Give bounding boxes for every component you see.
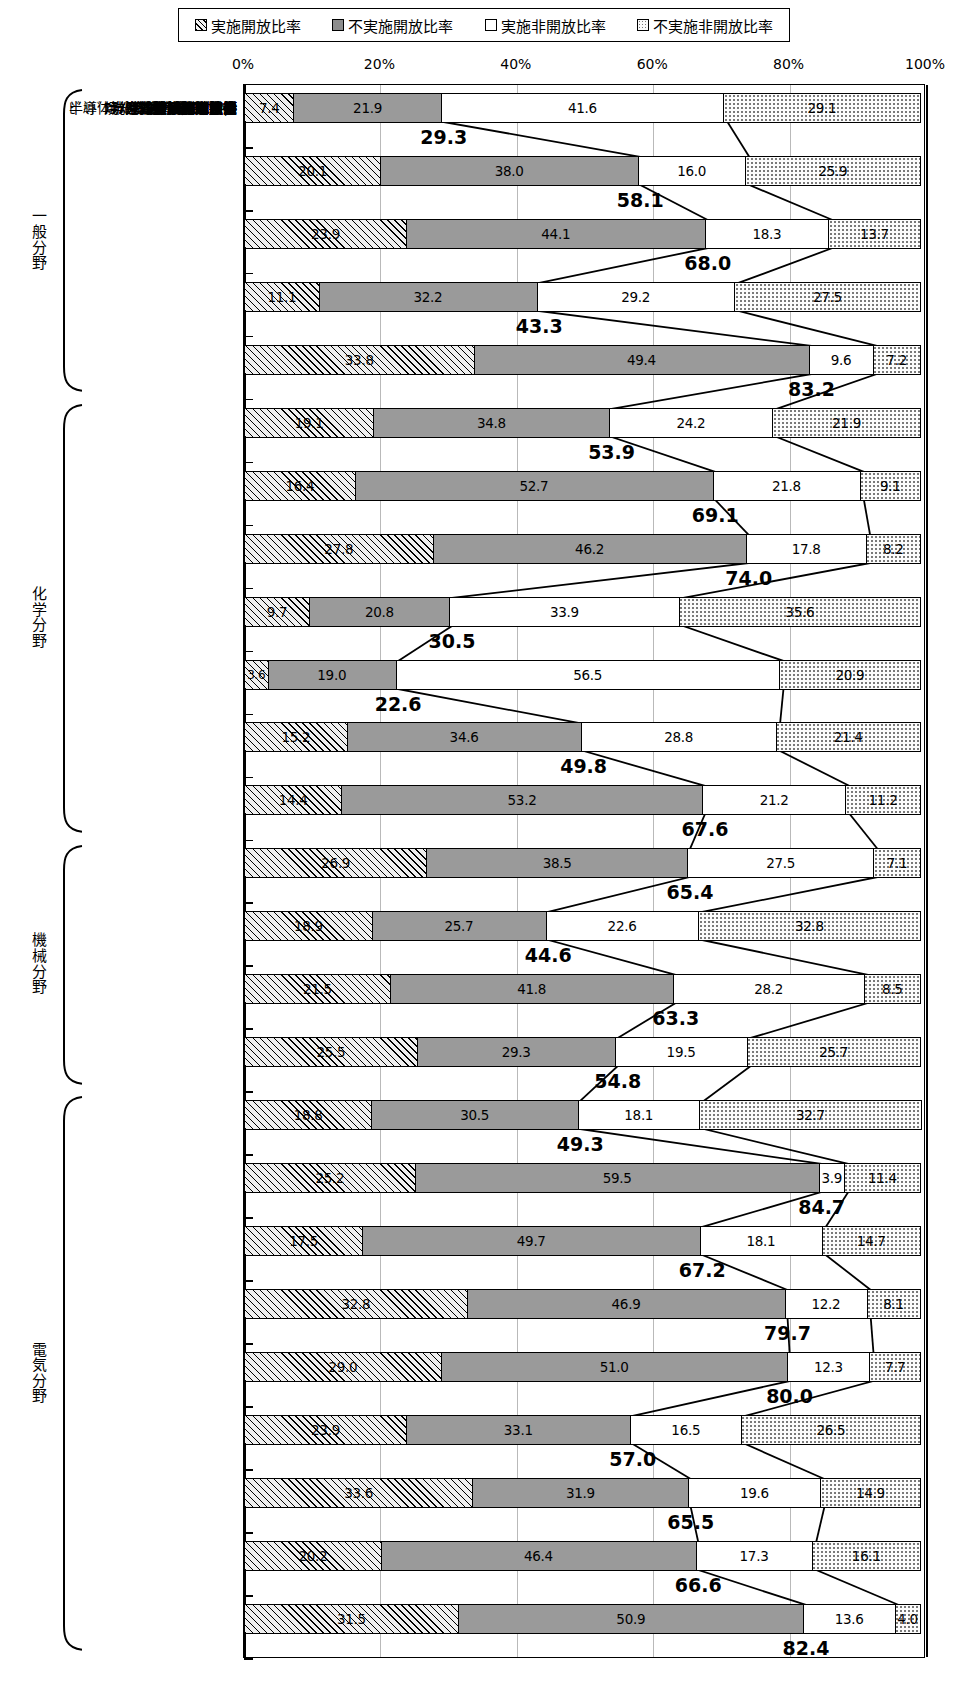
bar-segment-s1: 23.9 [244,219,407,249]
bar-segment-value: 23.9 [311,226,340,242]
gridline-100 [926,85,928,1657]
bar-segment-value: 18.3 [753,226,782,242]
bar-segment-value: 29.2 [621,289,650,305]
bar-segment-s4: 35.6 [678,597,921,627]
open-ratio-total-label: 67.2 [679,1259,726,1281]
bar-segment-value: 32.8 [795,918,824,934]
bar-segment-s2: 46.4 [380,1541,696,1571]
bar-segment-s4: 14.7 [821,1226,921,1256]
bar-segment-s3: 19.6 [688,1478,822,1508]
bar-segment-value: 52.7 [520,478,549,494]
bar-segment-value: 21.2 [760,792,789,808]
group-label: 一般分野 [30,209,48,271]
bar-segment-value: 25.2 [316,1170,345,1186]
stacked-bar: 31.550.913.64.0 [244,1604,926,1634]
x-tick-label-0: 0% [232,56,254,72]
bar-segment-s1: 3.6 [244,660,269,690]
bar-segment-value: 20.1 [298,163,327,179]
bar-segment-s3: 9.6 [808,345,873,375]
group-brace-icon [56,1095,96,1656]
bar-segment-s2: 20.8 [309,597,451,627]
bar-segment-value: 22.6 [608,918,637,934]
category-label: 無線LAN [181,97,237,117]
bar-segment-value: 21.5 [303,981,332,997]
group-brace-icon [56,844,96,1090]
bar-segment-s3: 29.2 [536,282,735,312]
bar-segment-s1: 32.8 [244,1289,468,1319]
chart-row: 27.846.217.88.274.0 [244,526,924,589]
chart-row: 9.720.833.935.630.5 [244,589,924,652]
bar-segment-value: 53.2 [508,792,537,808]
bar-segment-s4: 7.7 [869,1352,922,1382]
bar-segment-value: 24.2 [676,415,705,431]
bar-segment-value: 46.9 [612,1296,641,1312]
bar-segment-value: 29.3 [502,1044,531,1060]
bar-segment-value: 23.9 [311,1422,340,1438]
legend-swatch-grey-icon [332,19,344,31]
stacked-bar: 26.938.527.57.1 [244,848,926,878]
bar-segment-s2: 38.0 [379,156,638,186]
bar-segment-value: 19.5 [667,1044,696,1060]
bar-segment-s1: 19.1 [244,408,374,438]
bar-segment-s4: 25.7 [746,1037,921,1067]
bar-segment-value: 33.1 [504,1422,533,1438]
bar-segment-s4: 7.1 [873,848,921,878]
bar-segment-s3: 17.8 [745,534,866,564]
bar-segment-s3: 18.1 [699,1226,822,1256]
chart-row: 3.619.056.520.922.6 [244,652,924,715]
chart-row: 18.830.518.132.749.3 [244,1092,924,1155]
bar-segment-s2: 41.8 [389,974,674,1004]
stacked-bar-chart-plot: 7.421.941.629.129.320.138.016.025.958.12… [243,84,925,1658]
open-ratio-total-label: 79.7 [764,1322,811,1344]
stacked-bar: 20.138.016.025.9 [244,156,926,186]
bar-segment-s3: 41.6 [441,93,725,123]
bar-segment-value: 17.5 [289,1233,318,1249]
bar-segment-value: 12.2 [812,1296,841,1312]
bar-segment-value: 17.3 [740,1548,769,1564]
open-ratio-total-label: 65.4 [667,881,714,903]
bar-segment-value: 8.1 [883,1296,904,1312]
bar-segment-value: 31.9 [566,1485,595,1501]
open-ratio-total-label: 44.6 [525,944,572,966]
group-label: 機械分野 [30,933,48,995]
bar-segment-s2: 31.9 [472,1478,690,1508]
bar-segment-value: 20.8 [365,604,394,620]
bar-segment-s2: 34.8 [373,408,610,438]
bar-segment-s2: 49.4 [473,345,810,375]
chart-row: 26.938.527.57.165.4 [244,841,924,904]
bar-segment-s3: 19.5 [615,1037,748,1067]
chart-row: 23.944.118.313.768.0 [244,211,924,274]
bar-segment-s1: 16.4 [244,471,356,501]
bar-segment-value: 3.6 [247,668,265,682]
group-brace-icon [56,88,96,397]
stacked-bar: 23.944.118.313.7 [244,219,926,249]
bar-segment-value: 8.5 [882,981,903,997]
bar-segment-value: 21.9 [353,100,382,116]
bar-segment-s4: 25.9 [745,156,922,186]
x-tick-label-60: 60% [637,56,668,72]
bar-segment-value: 12.3 [814,1359,843,1375]
open-ratio-total-label: 74.0 [725,567,772,589]
bar-segment-s3: 28.8 [580,722,776,752]
chart-legend: 実施開放比率 不実施開放比率 実施非開放比率 不実施非開放比率 [178,8,790,42]
bar-segment-value: 26.9 [321,855,350,871]
bar-segment-s2: 32.2 [318,282,538,312]
bar-segment-s2: 46.9 [466,1289,786,1319]
x-axis-tick-labels: 0%20%40%60%80%100% [0,56,960,78]
chart-row: 25.529.319.525.754.8 [244,1029,924,1092]
bar-segment-s4: 8.5 [863,974,921,1004]
bar-segment-value: 28.2 [754,981,783,997]
legend-item-0: 実施開放比率 [195,15,301,36]
stacked-bar: 18.925.722.632.8 [244,911,926,941]
bar-segment-value: 4.0 [897,1611,918,1627]
bar-segment-s1: 18.9 [244,911,373,941]
open-ratio-total-label: 66.6 [675,1574,722,1596]
bar-segment-s3: 3.9 [818,1163,845,1193]
chart-row: 31.550.913.64.082.4 [244,1596,924,1659]
bar-segment-value: 16.0 [677,163,706,179]
bar-segment-s1: 9.7 [244,597,310,627]
legend-swatch-dotted-icon [637,19,649,31]
stacked-bar: 16.452.721.89.1 [244,471,926,501]
stacked-bar: 19.134.824.221.9 [244,408,926,438]
bar-segment-value: 7.2 [886,352,907,368]
